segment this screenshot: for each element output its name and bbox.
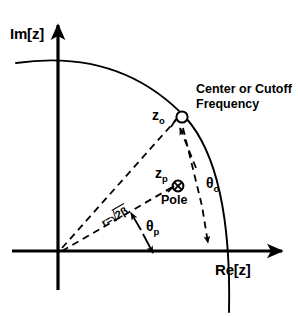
pole-point-symbol: z — [155, 165, 162, 181]
zero-marker-open-circle — [176, 111, 187, 122]
theta-zero-subscript: o — [214, 183, 220, 194]
theta-pole-symbol: θ — [146, 218, 154, 234]
theta-zero-label: θo — [206, 176, 219, 193]
zero-label-leader — [171, 119, 176, 127]
theta-zero-symbol: θ — [206, 175, 214, 191]
pole-marker-circled-x — [173, 181, 184, 192]
pole-point-label: zp — [155, 166, 168, 183]
zero-point-symbol: z — [152, 107, 159, 123]
cutoff-frequency-callout: Center or Cutoff Frequency — [196, 82, 292, 112]
real-axis-label: Re[z] — [215, 262, 251, 277]
diagram-canvas — [0, 0, 298, 316]
z-plane-diagram: Im[z] Re[z] Center or Cutoff Frequency z… — [0, 0, 298, 316]
pole-caption: Pole — [161, 194, 187, 207]
theta-zero-upper-arrow — [180, 128, 196, 168]
theta-pole-label: θp — [146, 219, 159, 236]
pole-point-subscript: p — [162, 173, 168, 184]
theta-pole-subscript: p — [154, 226, 160, 237]
zero-point-label: zo — [152, 108, 165, 125]
zero-point-subscript: o — [159, 115, 165, 126]
imaginary-axis-label: Im[z] — [10, 26, 44, 41]
